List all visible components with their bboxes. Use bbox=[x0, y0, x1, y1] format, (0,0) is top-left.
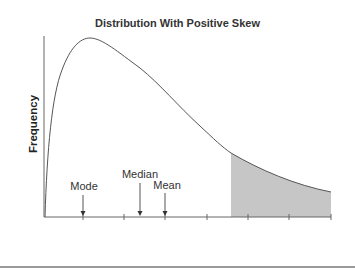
shaded-tail-region bbox=[231, 153, 331, 217]
mean-label: Mean bbox=[153, 179, 181, 191]
divider-rule bbox=[0, 266, 355, 268]
y-axis-label: Frequency bbox=[27, 95, 39, 153]
chart-title: Distribution With Positive Skew bbox=[0, 17, 355, 29]
mode-arrow-icon bbox=[81, 195, 86, 216]
mode-label: Mode bbox=[70, 180, 98, 192]
median-arrow-icon bbox=[138, 183, 143, 216]
skew-distribution-chart bbox=[0, 0, 355, 276]
mean-arrow-icon bbox=[163, 193, 168, 216]
